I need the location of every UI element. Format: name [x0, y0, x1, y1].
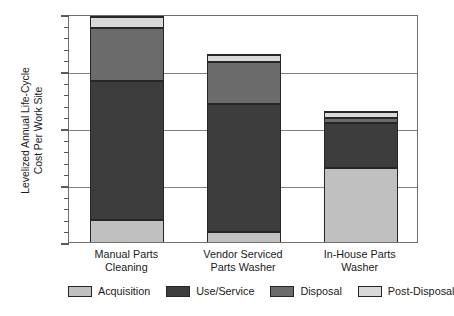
- bar-segment-post-disposal: [208, 55, 280, 62]
- y-axis-minor-tick: [64, 141, 69, 142]
- y-axis-minor-tick: [64, 95, 69, 96]
- y-axis-minor-tick: [64, 27, 69, 28]
- bar-segment-disposal: [91, 28, 163, 81]
- y-axis-minor-tick: [64, 209, 69, 210]
- legend-label: Acquisition: [98, 286, 150, 297]
- bar-segment-disposal: [208, 62, 280, 104]
- legend-item-acquisition[interactable]: Acquisition: [68, 286, 150, 297]
- legend-label: Use/Service: [196, 286, 254, 297]
- legend-label: Post-Disposal: [388, 286, 454, 297]
- y-axis-minor-tick: [64, 107, 69, 108]
- y-axis-minor-tick: [64, 232, 69, 233]
- legend-item-use-service[interactable]: Use/Service: [166, 286, 254, 297]
- bar-1: [90, 16, 164, 242]
- y-axis-minor-tick: [64, 50, 69, 51]
- y-axis-major-tick: [61, 186, 69, 187]
- bar-segment-post-disposal: [91, 17, 163, 27]
- bar-2: [207, 54, 281, 242]
- y-axis-major-tick: [61, 72, 69, 73]
- plot-area: [68, 15, 418, 243]
- legend-label: Disposal: [300, 286, 341, 297]
- x-axis-label-1: Manual Parts Cleaning: [68, 248, 185, 274]
- y-axis-minor-tick: [64, 198, 69, 199]
- y-axis-minor-tick: [64, 152, 69, 153]
- y-axis-minor-tick: [64, 118, 69, 119]
- bar-segment-disposal: [325, 118, 397, 124]
- bar-segment-use-service: [208, 104, 280, 232]
- legend-item-disposal[interactable]: Disposal: [270, 286, 341, 297]
- y-axis-major-tick: [61, 15, 69, 16]
- legend-swatch-icon: [68, 286, 92, 297]
- x-axis-label-3: In-House Parts Washer: [301, 248, 418, 274]
- bar-segment-use-service: [91, 81, 163, 221]
- bar-segment-acquisition: [208, 232, 280, 242]
- legend-swatch-icon: [358, 286, 382, 297]
- y-axis-minor-tick: [64, 164, 69, 165]
- y-axis-major-tick: [61, 129, 69, 130]
- y-axis-minor-tick: [64, 84, 69, 85]
- legend-item-post-disposal[interactable]: Post-Disposal: [358, 286, 454, 297]
- bar-segment-acquisition: [91, 220, 163, 242]
- bar-segment-post-disposal: [325, 112, 397, 118]
- y-axis-major-tick: [61, 243, 69, 244]
- chart-legend: AcquisitionUse/ServiceDisposalPost-Dispo…: [68, 283, 426, 299]
- y-axis-minor-tick: [64, 221, 69, 222]
- bar-3: [324, 111, 398, 242]
- y-axis-minor-tick: [64, 38, 69, 39]
- legend-swatch-icon: [270, 286, 294, 297]
- y-axis-minor-tick: [64, 175, 69, 176]
- bar-segment-use-service: [325, 123, 397, 168]
- x-axis-label-2: Vendor Serviced Parts Washer: [185, 248, 302, 274]
- y-axis-title: Levelized Annual Life-Cycle Cost Per Wor…: [19, 16, 44, 246]
- bar-segment-acquisition: [325, 168, 397, 242]
- y-axis-minor-tick: [64, 61, 69, 62]
- legend-swatch-icon: [166, 286, 190, 297]
